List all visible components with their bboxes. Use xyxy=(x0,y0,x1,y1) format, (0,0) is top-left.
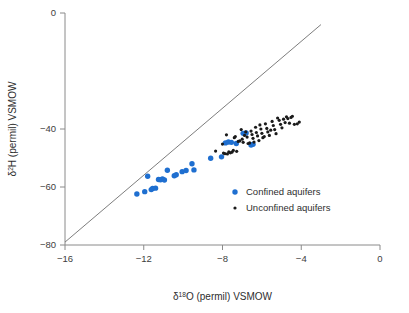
y-tick-label: −60 xyxy=(40,181,56,192)
data-point xyxy=(208,156,213,161)
data-point xyxy=(248,141,251,144)
data-point xyxy=(174,172,179,177)
legend-label-confined: Confined aquifers xyxy=(246,186,321,197)
data-point xyxy=(183,168,188,173)
x-tick-label: −12 xyxy=(136,253,152,264)
scatter-plot-figure: 0−40−60−80−16−12−8−40δ18O (permil) VSMOW… xyxy=(0,0,409,313)
data-point xyxy=(234,135,237,138)
data-point xyxy=(263,135,266,138)
data-point xyxy=(246,136,249,139)
series-unconfined xyxy=(214,115,301,156)
data-point xyxy=(280,126,283,129)
legend: Confined aquifersUnconfined aquifers xyxy=(232,186,330,213)
axis-spines xyxy=(65,13,380,245)
data-point xyxy=(254,126,257,129)
data-point xyxy=(134,191,139,196)
data-point xyxy=(145,174,150,179)
data-point xyxy=(219,154,224,159)
data-point xyxy=(256,134,259,137)
data-point xyxy=(279,123,282,126)
data-point xyxy=(274,132,277,135)
data-point xyxy=(291,115,294,118)
data-point xyxy=(288,122,291,125)
data-point xyxy=(298,120,301,123)
legend-label-unconfined: Unconfined aquifers xyxy=(246,202,331,213)
data-point xyxy=(252,140,255,143)
data-point xyxy=(250,133,253,136)
x-axis-title: δ18O (permil) VSMOW xyxy=(173,291,273,303)
data-point xyxy=(260,132,263,135)
data-point xyxy=(264,122,267,125)
x-tick-label: 0 xyxy=(377,253,382,264)
data-point xyxy=(225,133,228,136)
data-point xyxy=(271,120,274,123)
data-point xyxy=(265,127,268,130)
y-axis-ticks: 0−40−60−80 xyxy=(40,7,65,250)
legend-marker-unconfined xyxy=(233,206,236,209)
data-point xyxy=(241,138,244,141)
x-tick-label: −16 xyxy=(57,253,73,264)
data-point xyxy=(189,161,194,166)
data-point xyxy=(272,124,275,127)
data-point xyxy=(214,149,217,152)
data-point xyxy=(284,121,287,124)
y-tick-label: −80 xyxy=(40,239,56,250)
data-point xyxy=(240,128,243,131)
data-point xyxy=(266,130,269,133)
y-tick-label: 0 xyxy=(51,7,56,18)
plot-canvas: 0−40−60−80−16−12−8−40δ18O (permil) VSMOW… xyxy=(0,0,409,313)
data-point xyxy=(257,139,260,142)
data-point xyxy=(221,142,224,145)
data-point xyxy=(286,117,289,120)
data-point xyxy=(249,129,252,132)
data-point xyxy=(153,185,158,190)
data-point xyxy=(229,140,234,145)
data-point xyxy=(165,167,170,172)
data-point xyxy=(244,130,247,133)
data-point xyxy=(191,167,196,172)
y-tick-label: −40 xyxy=(40,123,56,134)
data-point xyxy=(268,134,271,137)
data-point xyxy=(273,128,276,131)
y-axis-title: δ2H (permil) VSMOW xyxy=(7,81,19,176)
data-point xyxy=(278,119,281,122)
data-point xyxy=(232,149,235,152)
data-point xyxy=(242,141,245,144)
data-point xyxy=(251,137,254,140)
data-point xyxy=(235,150,238,153)
data-point xyxy=(293,123,296,126)
data-point xyxy=(282,118,285,121)
data-point xyxy=(258,123,261,126)
x-axis-ticks: −16−12−8−40 xyxy=(57,245,383,264)
data-point xyxy=(255,131,258,134)
data-point xyxy=(269,129,272,132)
x-tick-label: −8 xyxy=(217,253,228,264)
data-point xyxy=(259,127,262,130)
data-point xyxy=(142,189,147,194)
data-point xyxy=(162,177,167,182)
x-tick-label: −4 xyxy=(296,253,307,264)
legend-marker-confined xyxy=(232,189,237,194)
